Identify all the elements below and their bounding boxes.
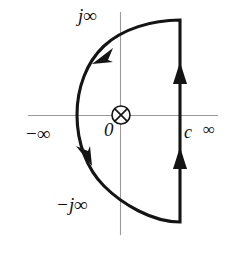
label-abscissa-c: c bbox=[184, 123, 192, 141]
label-minus-infinity: −∞ bbox=[26, 124, 50, 143]
origin-pole-marker bbox=[112, 106, 130, 124]
vertical-lower-arrow-icon bbox=[173, 147, 187, 169]
label-minus-j-infinity: −j∞ bbox=[56, 195, 88, 214]
arc-lower-arrow-icon bbox=[76, 146, 92, 166]
vertical-upper-arrow-icon bbox=[173, 62, 187, 84]
label-origin: 0 bbox=[104, 120, 114, 139]
label-infinity-right: ∞ bbox=[203, 121, 215, 138]
contour-figure: j∞ −j∞ −∞ 0 c ∞ bbox=[0, 0, 233, 265]
arrowheads-group bbox=[76, 48, 187, 169]
label-j-infinity: j∞ bbox=[78, 6, 97, 25]
